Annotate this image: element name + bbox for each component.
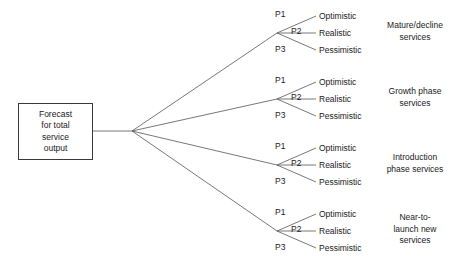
prob-label-g1-p2: P2 (291, 26, 301, 36)
leaf-label-g1-optimistic: Optimistic (319, 11, 356, 21)
root-node-box: Forecast for total service output (18, 103, 93, 160)
leaf-label-g3-optimistic: Optimistic (319, 143, 356, 153)
prob-label-g4-p1: P1 (275, 207, 285, 217)
edge-hub-to-group-2 (132, 99, 277, 131)
prob-label-g4-p3: P3 (275, 242, 285, 252)
prob-label-g2-p3: P3 (275, 110, 285, 120)
leaf-label-g4-realistic: Realistic (319, 226, 351, 236)
prob-label-g2-p1: P1 (275, 75, 285, 85)
edge-hub-to-group-3 (132, 131, 277, 165)
diagram-canvas: Forecast for total service output P1 P2 … (0, 0, 470, 265)
leaf-label-g2-realistic: Realistic (319, 94, 351, 104)
group-label-introduction-phase-services: Introduction phase services (363, 152, 467, 175)
edge-hub-to-group-1 (132, 33, 277, 131)
root-node-label: Forecast for total service output (39, 109, 72, 155)
group-label-growth-phase-services: Growth phase services (363, 86, 467, 109)
prob-label-g4-p2: P2 (291, 224, 301, 234)
edge-hub-to-group-4 (132, 131, 277, 231)
leaf-label-g1-realistic: Realistic (319, 28, 351, 38)
prob-label-g3-p2: P2 (291, 158, 301, 168)
leaf-label-g4-pessimistic: Pessimistic (319, 243, 362, 253)
prob-label-g1-p3: P3 (275, 44, 285, 54)
leaf-label-g2-pessimistic: Pessimistic (319, 111, 362, 121)
leaf-label-g3-realistic: Realistic (319, 160, 351, 170)
prob-label-g3-p3: P3 (275, 176, 285, 186)
prob-label-g2-p2: P2 (291, 92, 301, 102)
prob-label-g1-p1: P1 (275, 9, 285, 19)
group-label-mature-decline-services: Mature/decline services (363, 20, 467, 43)
leaf-label-g3-pessimistic: Pessimistic (319, 177, 362, 187)
group-label-near-to-launch-new-services: Near-to- launch new services (363, 212, 467, 247)
prob-label-g3-p1: P1 (275, 141, 285, 151)
leaf-label-g1-pessimistic: Pessimistic (319, 45, 362, 55)
leaf-label-g4-optimistic: Optimistic (319, 209, 356, 219)
leaf-label-g2-optimistic: Optimistic (319, 77, 356, 87)
